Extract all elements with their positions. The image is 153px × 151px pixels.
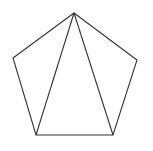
pentagon-diagram <box>0 0 153 151</box>
pentagon-outline <box>13 13 137 135</box>
diagonal-top-to-bottom-left <box>36 13 74 135</box>
diagonal-top-to-bottom-right <box>74 13 113 135</box>
diagram-canvas <box>0 0 153 151</box>
